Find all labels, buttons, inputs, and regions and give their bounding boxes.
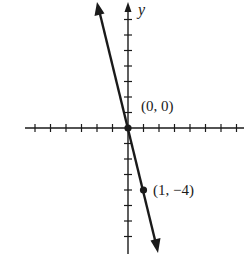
- point-1-neg4: [140, 186, 147, 193]
- line-arrow-up-icon: [95, 2, 105, 16]
- line-arrow-down-icon: [151, 238, 161, 253]
- point-label-1-neg4: (1, −4): [153, 183, 194, 198]
- y-axis-arrow-icon: [125, 2, 132, 12]
- point-label-origin: (0, 0): [141, 99, 174, 114]
- y-axis-label: y: [138, 2, 145, 18]
- graph-canvas: [0, 0, 244, 254]
- coordinate-graph: y (0, 0) (1, −4): [0, 0, 244, 254]
- point-origin: [124, 124, 131, 131]
